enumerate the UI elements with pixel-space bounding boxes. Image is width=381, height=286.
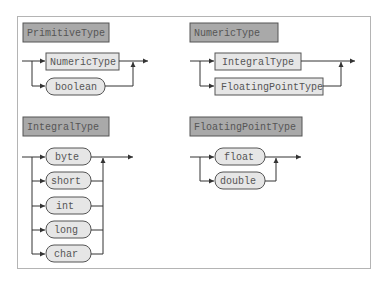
diagram-numeric-type: NumericType IntegralType FloatingPointTy… [190, 23, 355, 95]
diagram-title: FloatingPointType [194, 122, 296, 133]
choice-label: char [54, 249, 78, 260]
choice-label: boolean [55, 82, 97, 93]
choice-label: FloatingPointType [221, 82, 323, 93]
diagram-title: IntegralType [27, 122, 99, 133]
diagram-integral-type: IntegralType byte short int long char [22, 117, 133, 262]
choice-label: NumericType [50, 57, 116, 68]
choice-label: float [224, 152, 254, 163]
railroad-diagrams: PrimitiveType NumericType boolean Numeri… [0, 0, 381, 286]
choice-label: int [56, 201, 74, 212]
diagram-title: NumericType [194, 28, 260, 39]
diagram-floating-point-type: FloatingPointType float double [190, 117, 302, 189]
choice-label: short [51, 176, 81, 187]
choice-label: double [220, 176, 256, 187]
choice-label: IntegralType [222, 57, 294, 68]
choice-label: long [54, 225, 78, 236]
diagram-title: PrimitiveType [27, 28, 105, 39]
diagram-primitive-type: PrimitiveType NumericType boolean [22, 23, 148, 95]
choice-label: byte [55, 152, 79, 163]
